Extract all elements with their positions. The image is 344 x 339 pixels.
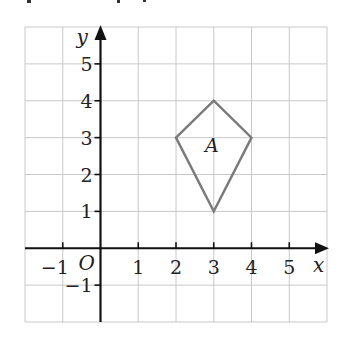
coordinate-grid-figure: −112345−112345 A x y O <box>0 0 344 339</box>
x-tick-label: 1 <box>132 256 144 278</box>
shape-label: A <box>203 134 219 156</box>
text-fragment <box>27 0 31 3</box>
x-tick-label: 4 <box>245 256 257 278</box>
x-tick-label: 5 <box>283 256 295 278</box>
x-axis-label: x <box>313 253 324 277</box>
y-tick-label: 4 <box>80 90 92 112</box>
y-tick-label: 1 <box>80 200 92 222</box>
y-tick-label: 5 <box>80 53 92 75</box>
y-axis-label: y <box>76 25 89 49</box>
text-fragment <box>143 0 146 2</box>
origin-label: O <box>79 251 95 275</box>
x-tick-label: 2 <box>170 256 182 278</box>
y-tick-label: 2 <box>80 164 92 186</box>
x-tick-label: 3 <box>208 256 220 278</box>
text-fragment <box>117 0 120 3</box>
cropped-text-fragments <box>27 0 146 3</box>
y-tick-label: 3 <box>80 127 92 149</box>
y-tick-label: −1 <box>64 274 92 296</box>
